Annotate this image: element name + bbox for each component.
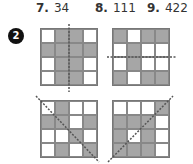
grid-cell — [155, 101, 169, 115]
grid-cell — [69, 115, 83, 129]
grid-cell — [113, 43, 127, 57]
answer-7: 7.34 — [36, 1, 69, 15]
grid-cell — [55, 43, 69, 57]
grid-cell — [69, 43, 83, 57]
grid-cell — [127, 29, 141, 43]
grid-cell — [55, 71, 69, 85]
grid-cell — [55, 101, 69, 115]
grid-cell — [41, 129, 55, 143]
grid-cell — [83, 43, 97, 57]
grid-cell — [83, 29, 97, 43]
grid-cell — [155, 129, 169, 143]
answer-row: 7.34 8.111 9.422 — [0, 1, 193, 17]
grid-cell — [127, 115, 141, 129]
grid-cell — [127, 101, 141, 115]
grid-cell — [41, 43, 55, 57]
grid-cell — [41, 29, 55, 43]
grid-cell — [55, 115, 69, 129]
grid-bottom-left — [40, 100, 98, 158]
grid-cell — [69, 129, 83, 143]
grid-cell — [113, 57, 127, 71]
answer-9: 9.422 — [147, 1, 188, 15]
grid-cell — [69, 101, 83, 115]
grid-cell — [55, 57, 69, 71]
grid-cell — [41, 143, 55, 157]
grid-cell — [155, 43, 169, 57]
grid-cell — [41, 57, 55, 71]
grid-cell — [113, 101, 127, 115]
grid-cell — [113, 29, 127, 43]
grid-cell — [83, 57, 97, 71]
grid-cell — [83, 115, 97, 129]
grid-cell — [155, 57, 169, 71]
grid-cell — [41, 115, 55, 129]
grid-cell — [127, 71, 141, 85]
grid-top-left — [40, 28, 98, 86]
grid-cell — [141, 143, 155, 157]
grid-cell — [83, 143, 97, 157]
grid-cell — [127, 129, 141, 143]
grid-cell — [69, 57, 83, 71]
grid-bottom-right — [112, 100, 170, 158]
answer-number: 9. — [147, 1, 160, 15]
grid-cell — [127, 57, 141, 71]
grid-cell — [141, 129, 155, 143]
grid-cell — [155, 71, 169, 85]
grid-cell — [127, 143, 141, 157]
grid-cell — [83, 129, 97, 143]
grid-cell — [55, 29, 69, 43]
grid-cell — [55, 143, 69, 157]
grid-cell — [155, 29, 169, 43]
grid-top-right — [112, 28, 170, 86]
grid-cell — [141, 43, 155, 57]
grid-cell — [141, 71, 155, 85]
answer-value: 34 — [54, 1, 69, 15]
grid-cell — [155, 143, 169, 157]
answer-value: 111 — [113, 1, 136, 15]
grid-cell — [113, 143, 127, 157]
grid-cell — [155, 115, 169, 129]
answer-value: 422 — [165, 1, 188, 15]
grid-cell — [55, 129, 69, 143]
answer-number: 7. — [36, 1, 49, 15]
grid-cell — [141, 29, 155, 43]
problem-number-badge: 2 — [8, 28, 24, 44]
answer-8: 8.111 — [95, 1, 136, 15]
grid-cell — [141, 101, 155, 115]
grid-cell — [83, 71, 97, 85]
answer-number: 8. — [95, 1, 108, 15]
grid-cell — [69, 29, 83, 43]
grid-cell — [113, 71, 127, 85]
grid-cell — [69, 71, 83, 85]
grid-cell — [113, 129, 127, 143]
grid-cell — [113, 115, 127, 129]
grid-cell — [41, 101, 55, 115]
grid-cell — [83, 101, 97, 115]
grid-cell — [69, 143, 83, 157]
grid-cell — [127, 43, 141, 57]
grid-cell — [141, 57, 155, 71]
grid-cell — [41, 71, 55, 85]
grid-cell — [141, 115, 155, 129]
